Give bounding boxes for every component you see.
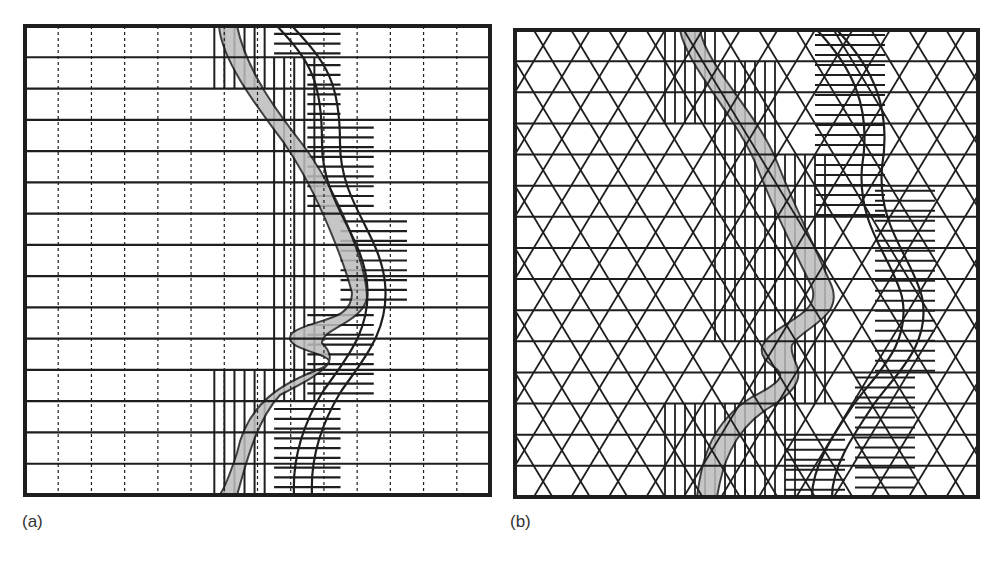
panel-b xyxy=(512,27,982,501)
rectangular-grid-diagram xyxy=(22,23,494,499)
panel-b-label: (b) xyxy=(510,512,531,532)
panel-a xyxy=(22,23,494,499)
triangular-grid-diagram xyxy=(512,27,982,501)
panel-a-label: (a) xyxy=(22,512,43,532)
